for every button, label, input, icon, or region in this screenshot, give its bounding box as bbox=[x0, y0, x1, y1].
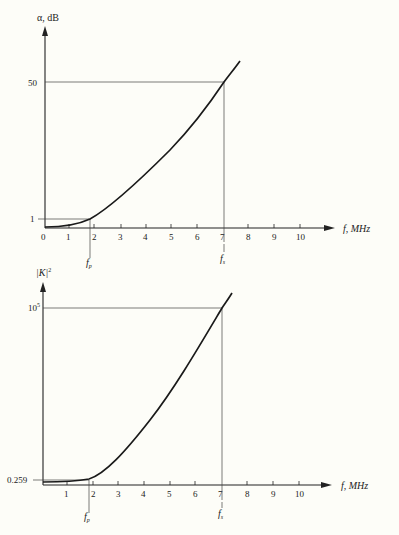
top-tick-3: 3 bbox=[118, 232, 123, 242]
bottom-tick-1: 1 bbox=[64, 489, 69, 499]
bottom-tick-9: 9 bbox=[271, 489, 276, 499]
top-tick-6: 6 bbox=[195, 232, 200, 242]
bottom-tick-5: 5 bbox=[167, 489, 172, 499]
top-y-arrow-icon bbox=[42, 26, 48, 36]
bottom-chart: |K|2 f, MHz 1 2 3 4 5 6 7 8 9 10 bbox=[7, 267, 368, 523]
top-fs-label: fs bbox=[220, 253, 226, 265]
top-y-tick-50: 50 bbox=[28, 78, 38, 88]
bottom-y-tick-1e5: 105 bbox=[28, 302, 40, 313]
top-tick-4: 4 bbox=[143, 232, 148, 242]
bottom-y-tick-0259: 0.259 bbox=[7, 475, 28, 485]
chart-canvas: α, dB f, MHz 0 1 2 3 4 5 6 7 8 9 bbox=[0, 0, 399, 535]
bottom-fs-label: fs bbox=[218, 508, 224, 520]
top-fp-label: fp bbox=[86, 257, 92, 269]
bottom-tick-3: 3 bbox=[116, 489, 121, 499]
top-x-label: f, MHz bbox=[343, 223, 370, 234]
top-tick-9: 9 bbox=[272, 232, 277, 242]
top-tick-1: 1 bbox=[66, 232, 71, 242]
bottom-y-arrow-icon bbox=[40, 282, 46, 292]
top-tick-10: 10 bbox=[296, 232, 306, 242]
top-tick-2: 2 bbox=[92, 232, 97, 242]
bottom-tick-10: 10 bbox=[295, 489, 305, 499]
bottom-y-label: |K|2 bbox=[36, 267, 51, 278]
bottom-x-label: f, MHz bbox=[341, 480, 368, 491]
bottom-tick-8: 8 bbox=[245, 489, 250, 499]
bottom-tick-2: 2 bbox=[91, 489, 96, 499]
bottom-k-squared-curve bbox=[43, 293, 232, 482]
figure: α, dB f, MHz 0 1 2 3 4 5 6 7 8 9 bbox=[0, 0, 399, 535]
top-tick-0: 0 bbox=[41, 232, 46, 242]
top-tick-5: 5 bbox=[169, 232, 174, 242]
top-x-arrow-icon bbox=[324, 225, 335, 231]
bottom-tick-4: 4 bbox=[141, 489, 146, 499]
top-tick-8: 8 bbox=[246, 232, 251, 242]
bottom-tick-6: 6 bbox=[193, 489, 198, 499]
bottom-x-arrow-icon bbox=[321, 482, 332, 488]
top-y-tick-1: 1 bbox=[30, 214, 35, 224]
top-attenuation-curve bbox=[45, 61, 240, 227]
top-chart: α, dB f, MHz 0 1 2 3 4 5 6 7 8 9 bbox=[28, 12, 370, 269]
top-y-label: α, dB bbox=[37, 12, 59, 23]
